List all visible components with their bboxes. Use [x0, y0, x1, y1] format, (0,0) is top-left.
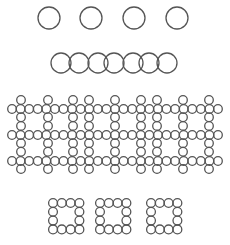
circle-shape: [104, 53, 124, 73]
circle-shape: [123, 53, 143, 73]
circle-shape: [188, 105, 197, 114]
circle-shape: [179, 165, 188, 174]
circle-shape: [153, 165, 162, 174]
circle-shape: [137, 139, 146, 148]
circle-shape: [57, 225, 66, 234]
circle-shape: [111, 113, 120, 122]
circle-shape: [119, 131, 128, 140]
circle-shape: [173, 225, 182, 234]
circle-shape: [49, 225, 58, 234]
circle-shape: [59, 131, 68, 140]
circle-shape: [17, 122, 26, 131]
circle-shape: [59, 105, 68, 114]
circle-shape: [51, 157, 60, 166]
circle-shape: [122, 225, 131, 234]
circle-shape: [205, 105, 214, 114]
circle-shape: [102, 105, 111, 114]
circle-shape: [111, 157, 120, 166]
circle-shape: [49, 199, 58, 208]
circle-shape: [179, 139, 188, 148]
circle-shape: [137, 122, 146, 131]
circle-shape: [113, 199, 122, 208]
circle-shape: [122, 199, 131, 208]
circle-shape: [51, 131, 60, 140]
circle-shape: [33, 157, 42, 166]
circle-shape: [44, 96, 53, 105]
circle-shape: [85, 147, 94, 156]
circle-shape: [179, 122, 188, 131]
circle-shape: [8, 131, 17, 140]
circle-shape: [25, 157, 34, 166]
circle-shape: [162, 157, 171, 166]
circle-shape: [16, 131, 25, 140]
circle-shape: [205, 113, 214, 122]
circle-shape: [164, 225, 173, 234]
circle-shape: [197, 157, 206, 166]
circle-shape: [42, 131, 51, 140]
circle-shape: [136, 131, 145, 140]
circle-shape: [119, 105, 128, 114]
circle-shape: [205, 147, 214, 156]
circle-shape: [96, 207, 105, 216]
circle-shape: [76, 105, 85, 114]
circle-shape: [38, 7, 60, 29]
circle-shape: [137, 147, 146, 156]
circle-shape: [147, 207, 156, 216]
circle-shape: [69, 139, 78, 148]
circle-squares: [49, 199, 182, 234]
circle-shape: [69, 122, 78, 131]
circle-shape: [214, 131, 223, 140]
circle-shape: [145, 105, 154, 114]
circle-shape: [69, 147, 78, 156]
circle-shape: [154, 105, 163, 114]
circle-shape: [173, 216, 182, 225]
circle-shape: [162, 131, 171, 140]
circle-shape: [136, 157, 145, 166]
circle-shape: [68, 105, 77, 114]
circle-shape: [94, 131, 103, 140]
circle-shape: [33, 131, 42, 140]
circle-shape: [8, 157, 17, 166]
circle-shape: [139, 53, 159, 73]
circle-shape: [96, 199, 105, 208]
circle-shape: [147, 216, 156, 225]
circle-shape: [153, 122, 162, 131]
circle-shape: [171, 131, 180, 140]
circle-shape: [153, 147, 162, 156]
circle-shape: [154, 131, 163, 140]
circle-shape: [17, 147, 26, 156]
circle-shape: [205, 157, 214, 166]
circle-shape: [173, 199, 182, 208]
circle-shape: [42, 105, 51, 114]
circle-shape: [104, 225, 113, 234]
circle-shape: [85, 165, 94, 174]
circle-shape: [75, 207, 84, 216]
circle-shape: [85, 139, 94, 148]
circle-shape: [111, 139, 120, 148]
circle-shape: [157, 53, 177, 73]
circle-shape: [111, 131, 120, 140]
circle-shape: [44, 122, 53, 131]
circle-shape: [155, 225, 164, 234]
circle-shape: [94, 157, 103, 166]
circle-shape: [85, 157, 94, 166]
circle-shape: [17, 113, 26, 122]
circle-shape: [75, 199, 84, 208]
circle-shape: [205, 122, 214, 131]
circle-shape: [153, 113, 162, 122]
circle-shape: [51, 105, 60, 114]
circle-shape: [85, 96, 94, 105]
circle-shape: [88, 53, 108, 73]
circle-shape: [155, 199, 164, 208]
circle-shape: [104, 199, 113, 208]
circle-shape: [85, 105, 94, 114]
circle-shape: [16, 157, 25, 166]
circle-shape: [128, 131, 137, 140]
circle-shape: [111, 122, 120, 131]
circle-shape: [17, 139, 26, 148]
circle-shape: [66, 199, 75, 208]
circle-shape: [128, 157, 137, 166]
circle-shape: [197, 131, 206, 140]
circle-shape: [68, 157, 77, 166]
circle-shape: [122, 207, 131, 216]
